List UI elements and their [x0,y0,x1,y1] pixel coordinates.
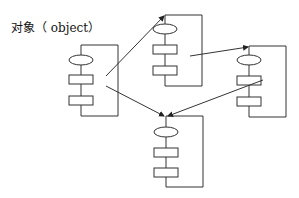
object-method-box [153,66,177,75]
message-arrow-object-2-to-object-3 [190,47,248,56]
object-method-box [154,168,178,177]
object-2 [153,15,202,86]
object-method-box [237,76,261,85]
object-state-ellipse [154,127,178,137]
object-method-box [237,97,261,106]
object-state-ellipse [153,24,177,34]
object-method-box [153,45,177,54]
object-4 [154,116,203,187]
object-state-ellipse [237,55,261,65]
object-method-box [154,148,178,157]
object-diagram [0,0,299,198]
object-state-ellipse [69,55,93,65]
object-method-box [69,75,93,84]
object-method-box [69,96,93,105]
message-arrow-object-1-to-object-4 [106,86,164,116]
object-1 [69,45,118,116]
object-3 [237,46,286,117]
